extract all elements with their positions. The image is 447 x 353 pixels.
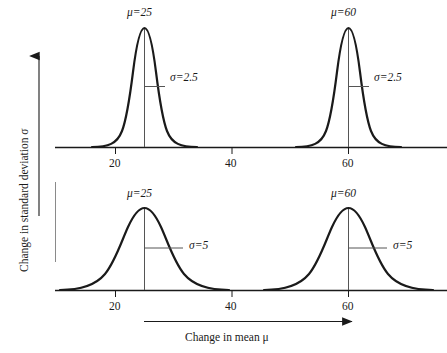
- top-mu-label-25: μ=25: [127, 7, 152, 19]
- top-tick-label-40: 40: [225, 158, 237, 170]
- bottom-tick-label-40: 40: [225, 301, 237, 313]
- figure-vector-layer: [0, 0, 447, 353]
- top-sigma-label-60: σ=2.5: [374, 72, 402, 84]
- bottom-mu-label-60: μ=60: [331, 188, 356, 200]
- top-tick-label-60: 60: [342, 158, 354, 170]
- bottom-mu-label-25: μ=25: [127, 188, 152, 200]
- top-mu-label-60: μ=60: [331, 7, 356, 19]
- bottom-panel: [55, 208, 447, 297]
- top-sigma-label-25: σ=2.5: [170, 72, 198, 84]
- bottom-tick-label-60: 60: [342, 301, 354, 313]
- top-panel: [55, 28, 447, 154]
- bottom-sigma-label-60: σ=5: [393, 240, 412, 252]
- x-axis-title: Change in mean μ: [185, 332, 269, 344]
- y-axis-title: Change in standard deviation σ: [18, 128, 30, 272]
- bottom-tick-label-20: 20: [109, 301, 121, 313]
- bottom-sigma-label-25: σ=5: [189, 240, 208, 252]
- top-tick-label-20: 20: [109, 158, 121, 170]
- figure-canvas: Change in standard deviation σ μ=25 σ=2.…: [0, 0, 447, 353]
